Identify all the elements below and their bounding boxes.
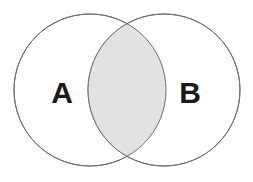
set-a-label: A — [51, 76, 73, 109]
set-b-label: B — [179, 76, 201, 109]
venn-diagram: A B — [0, 0, 253, 182]
venn-diagram-canvas: A B — [0, 0, 253, 182]
